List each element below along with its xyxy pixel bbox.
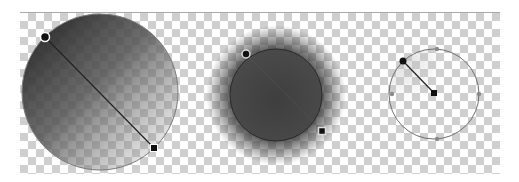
end-handle[interactable] <box>319 128 326 135</box>
start-handle[interactable] <box>41 33 50 42</box>
end-handle[interactable] <box>151 145 158 152</box>
linear-gradient-example <box>22 14 178 170</box>
radius-handle-left[interactable] <box>390 92 394 96</box>
radial-outline-example <box>389 47 481 141</box>
gradient-examples <box>0 0 519 182</box>
center-handle[interactable] <box>431 90 437 96</box>
glow-circle[interactable] <box>230 49 322 141</box>
start-handle[interactable] <box>400 58 407 65</box>
radius-handle-right[interactable] <box>477 92 481 96</box>
start-handle[interactable] <box>242 50 250 58</box>
radius-handle-top[interactable] <box>435 47 439 51</box>
glow-example <box>206 25 346 165</box>
radius-handle-bottom[interactable] <box>435 137 439 141</box>
